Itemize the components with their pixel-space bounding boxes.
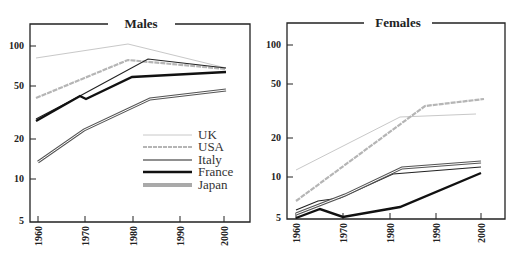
males-xtick-1990: 1990 [175,226,186,246]
males-xtick-2000: 2000 [219,226,230,246]
females-xtick-1990: 1990 [431,223,442,243]
females-panel: Females 100 50 20 10 5 1960 1970 1980 19… [266,15,505,243]
legend-label-japan: Japan [198,177,228,192]
females-xtick-1970: 1970 [338,223,349,243]
males-ytick-100: 100 [9,40,24,51]
females-xtick-1980: 1980 [385,223,396,243]
females-ytick-10: 10 [271,171,281,182]
males-x-axis: 1960 1970 1980 1990 2000 [33,216,230,246]
males-title: Males [124,16,157,31]
males-xtick-1960: 1960 [33,226,44,246]
males-ytick-20: 20 [14,133,24,144]
males-y-axis: 100 50 20 10 5 [9,40,36,226]
females-line-uk [296,114,476,170]
females-frame [287,23,505,219]
females-y-axis: 100 50 20 10 5 [266,39,293,223]
males-line-italy [36,59,226,119]
females-x-axis: 1960 1970 1980 1990 2000 [291,213,487,243]
females-xtick-1960: 1960 [291,223,302,243]
females-ytick-20: 20 [271,132,281,143]
males-xtick-1980: 1980 [128,226,139,246]
males-ytick-50: 50 [14,80,24,91]
males-xtick-1970: 1970 [80,226,91,246]
males-line-france [36,72,226,121]
females-xtick-2000: 2000 [476,223,487,243]
chart-canvas: Males 100 50 20 10 5 1960 1970 1980 1990… [0,0,515,259]
males-ytick-5: 5 [19,215,24,226]
males-ytick-10: 10 [14,173,24,184]
females-ytick-5: 5 [276,212,281,223]
females-title: Females [375,15,420,30]
males-panel: Males 100 50 20 10 5 1960 1970 1980 1990… [9,16,250,246]
legend: UK USA Italy France Japan [143,127,234,192]
females-ytick-50: 50 [271,78,281,89]
females-ytick-100: 100 [266,39,281,50]
